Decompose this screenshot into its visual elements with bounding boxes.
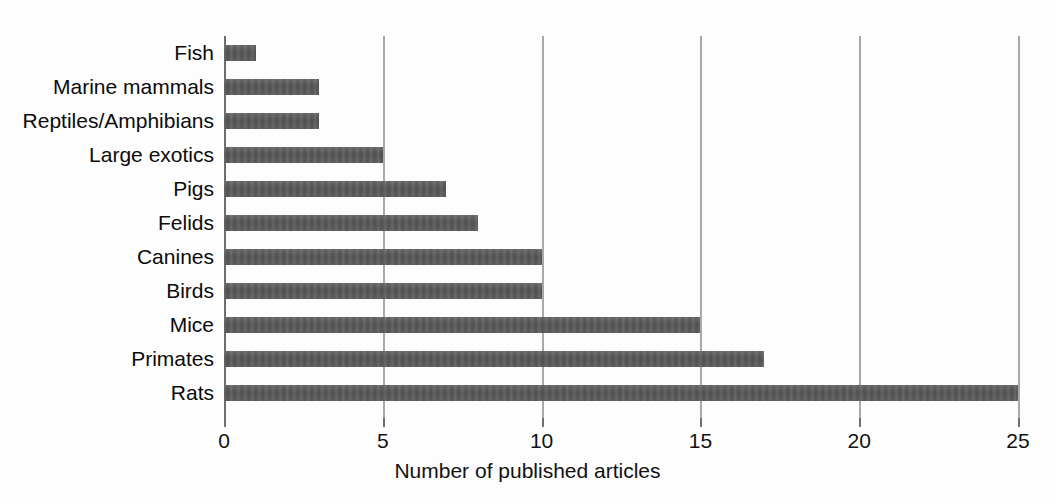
x-tick-10 bbox=[542, 418, 544, 427]
category-label-felids: Felids bbox=[0, 212, 214, 234]
category-label-birds: Birds bbox=[0, 280, 214, 302]
category-label-fish: Fish bbox=[0, 42, 214, 64]
category-label-pigs: Pigs bbox=[0, 178, 214, 200]
bar-row bbox=[224, 36, 1018, 70]
category-label-large-exotics: Large exotics bbox=[0, 144, 214, 166]
category-label-mice: Mice bbox=[0, 314, 214, 336]
x-tick-15 bbox=[700, 418, 702, 427]
bar-fish bbox=[224, 45, 256, 61]
bar-mice bbox=[224, 317, 700, 333]
category-label-rats: Rats bbox=[0, 382, 214, 404]
x-axis-title: Number of published articles bbox=[0, 458, 1055, 483]
bar-reptiles-amphibians bbox=[224, 113, 319, 129]
x-tick-label-15: 15 bbox=[670, 428, 730, 454]
x-tick-label-0: 0 bbox=[194, 428, 254, 454]
x-tick-5 bbox=[383, 418, 385, 427]
x-tick-label-5: 5 bbox=[353, 428, 413, 454]
bar-row bbox=[224, 70, 1018, 104]
bar-row bbox=[224, 138, 1018, 172]
x-tick-25 bbox=[1018, 418, 1020, 427]
x-tick-label-10: 10 bbox=[512, 428, 572, 454]
bar-row bbox=[224, 342, 1018, 376]
x-tick-20 bbox=[859, 418, 861, 427]
bar-row bbox=[224, 240, 1018, 274]
bar-chart: FishMarine mammalsReptiles/AmphibiansLar… bbox=[0, 0, 1055, 503]
category-label-primates: Primates bbox=[0, 348, 214, 370]
x-tick-label-25: 25 bbox=[988, 428, 1048, 454]
category-label-canines: Canines bbox=[0, 246, 214, 268]
bar-row bbox=[224, 308, 1018, 342]
bar-felids bbox=[224, 215, 478, 231]
x-tick-0 bbox=[224, 418, 226, 427]
bar-large-exotics bbox=[224, 147, 383, 163]
category-label-reptiles-amphibians: Reptiles/Amphibians bbox=[0, 110, 214, 132]
bar-row bbox=[224, 172, 1018, 206]
bar-marine-mammals bbox=[224, 79, 319, 95]
category-label-marine-mammals: Marine mammals bbox=[0, 76, 214, 98]
bar-canines bbox=[224, 249, 542, 265]
bar-row bbox=[224, 274, 1018, 308]
x-tick-label-20: 20 bbox=[829, 428, 889, 454]
bar-row bbox=[224, 206, 1018, 240]
bar-primates bbox=[224, 351, 764, 367]
bar-pigs bbox=[224, 181, 446, 197]
bar-row bbox=[224, 104, 1018, 138]
bar-row bbox=[224, 376, 1018, 410]
gridline-25 bbox=[1018, 36, 1020, 418]
bar-rats bbox=[224, 385, 1018, 401]
plot-area bbox=[224, 36, 1018, 418]
bar-birds bbox=[224, 283, 542, 299]
